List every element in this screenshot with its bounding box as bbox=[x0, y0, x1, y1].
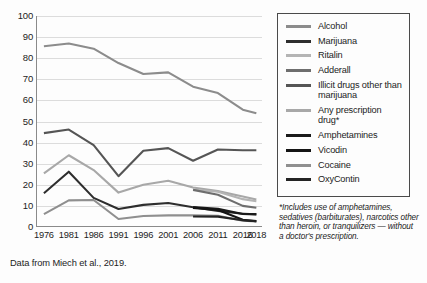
x-axis-tick-label: 1986 bbox=[84, 230, 104, 240]
legend-color-swatch bbox=[286, 149, 311, 152]
legend-color-swatch bbox=[286, 25, 311, 28]
x-axis-tick-label: 1996 bbox=[133, 230, 153, 240]
legend: AlcoholMarijuanaRitalinAdderallIllicit d… bbox=[277, 13, 410, 197]
x-axis-tick-label: 2018 bbox=[246, 230, 266, 240]
footnote: *Includes use of amphetamines, sedatives… bbox=[279, 203, 419, 241]
y-axis-tick-label: 80 bbox=[3, 52, 33, 63]
legend-item[interactable]: Any prescription drug* bbox=[286, 105, 403, 126]
x-axis-tick-label: 2006 bbox=[183, 230, 203, 240]
x-axis-tick-label: 2001 bbox=[158, 230, 178, 240]
legend-item[interactable]: OxyContin bbox=[286, 174, 403, 185]
legend-item[interactable]: Alcohol bbox=[286, 21, 403, 32]
legend-item[interactable]: Cocaine bbox=[286, 160, 403, 171]
legend-item-label: OxyContin bbox=[318, 174, 360, 185]
source-caption: Data from Miech et al., 2019. bbox=[10, 258, 126, 268]
legend-item-label: Illicit drugs other than marijuana bbox=[318, 80, 403, 101]
legend-color-swatch bbox=[286, 109, 311, 112]
legend-item-label: Ritalin bbox=[318, 50, 342, 61]
legend-item[interactable]: Marijuana bbox=[286, 36, 403, 47]
series-line bbox=[193, 216, 256, 221]
x-axis-tick-label: 1976 bbox=[34, 230, 54, 240]
legend-color-swatch bbox=[286, 164, 311, 167]
legend-item[interactable]: Amphetamines bbox=[286, 130, 403, 141]
chart-lines bbox=[36, 16, 262, 227]
legend-color-swatch bbox=[286, 134, 311, 137]
legend-item-label: Marijuana bbox=[318, 36, 357, 47]
legend-item-label: Cocaine bbox=[318, 160, 351, 171]
y-axis-tick-label: 20 bbox=[3, 179, 33, 190]
legend-color-swatch bbox=[286, 178, 311, 181]
plot-area bbox=[36, 16, 262, 227]
y-axis-tick-label: 30 bbox=[3, 158, 33, 169]
legend-item-label: Vicodin bbox=[318, 145, 347, 156]
legend-item-label: Alcohol bbox=[318, 21, 347, 32]
y-axis-labels: 1009080706050403020100 bbox=[0, 16, 33, 227]
y-axis-tick-label: 100 bbox=[3, 10, 33, 21]
y-axis-tick-label: 0 bbox=[3, 221, 33, 232]
legend-item-label: Any prescription drug* bbox=[318, 105, 403, 126]
x-axis-tick-label: 1981 bbox=[59, 230, 79, 240]
legend-color-swatch bbox=[286, 69, 311, 72]
legend-color-swatch bbox=[286, 54, 311, 57]
legend-item[interactable]: Ritalin bbox=[286, 50, 403, 61]
x-axis-tick-label: 2011 bbox=[208, 230, 227, 240]
legend-color-swatch bbox=[286, 40, 311, 43]
legend-color-swatch bbox=[286, 84, 311, 87]
y-axis-tick-label: 70 bbox=[3, 73, 33, 84]
x-axis-labels: 1976198119861991199620012006201120162018 bbox=[36, 230, 262, 244]
series-line bbox=[44, 43, 256, 113]
y-axis-tick-label: 60 bbox=[3, 94, 33, 105]
chart-screenshot: 1009080706050403020100 19761981198619911… bbox=[0, 0, 427, 283]
series-line bbox=[44, 130, 256, 177]
y-axis-tick-label: 10 bbox=[3, 200, 33, 211]
legend-item[interactable]: Illicit drugs other than marijuana bbox=[286, 80, 403, 101]
legend-item[interactable]: Vicodin bbox=[286, 145, 403, 156]
legend-item[interactable]: Adderall bbox=[286, 65, 403, 76]
legend-item-label: Adderall bbox=[318, 65, 351, 76]
y-axis-tick-label: 50 bbox=[3, 116, 33, 127]
legend-item-label: Amphetamines bbox=[318, 130, 377, 141]
y-axis-tick-label: 90 bbox=[3, 31, 33, 42]
x-axis-tick-label: 1991 bbox=[109, 230, 129, 240]
y-axis-tick-label: 40 bbox=[3, 137, 33, 148]
